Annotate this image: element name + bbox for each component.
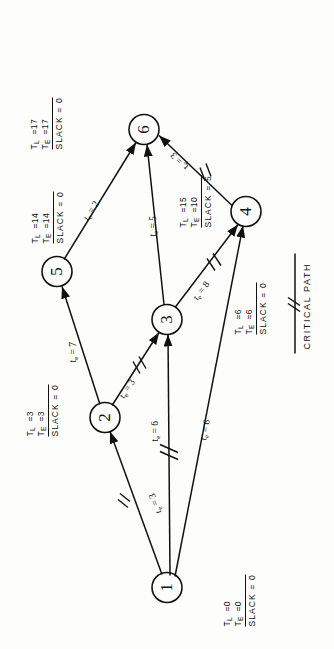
node-label-2[interactable]: 2: [92, 404, 118, 430]
node-label-3[interactable]: 3: [154, 306, 180, 332]
slack-row-4: SLACK = 0: [53, 191, 65, 243]
network-canvas: 1 2 3 4 5 6 TL=0 TE=0 SLACK = 0 TL=3 TE=…: [0, 0, 334, 649]
te-row-5: TE=10: [189, 175, 200, 227]
critical-tick-1-2: [118, 493, 130, 507]
edge-label-2-5: te = 7: [68, 341, 80, 362]
edge-1-4: [175, 225, 243, 576]
node-label-1[interactable]: 1: [154, 574, 180, 600]
stats-box-node-2: TL=3 TE=3 SLACK = 0: [25, 384, 60, 436]
te-row-2: TE=3: [36, 384, 47, 436]
stats-box-node-1: TL=0 TE=0 SLACK = 0: [222, 574, 257, 626]
tl-value-4: 14: [30, 201, 40, 223]
legend-sample: [288, 253, 300, 353]
tl-row-2: TL=3: [25, 384, 36, 436]
slack-row-5: SLACK = 5: [201, 175, 213, 227]
te-value-2: 3: [36, 394, 46, 416]
te-value-3: 6: [244, 292, 254, 314]
slack-value-1: 0: [247, 574, 257, 580]
stats-box-node-5: TL=15 TE=10 SLACK = 5: [178, 175, 213, 227]
stats-box-node-3: TL=6 TE=6 SLACK = 0: [233, 282, 268, 334]
slack-value-2: 0: [50, 384, 60, 390]
te-row-3: TE=6: [244, 282, 255, 334]
tl-row-3: TL=6: [233, 282, 244, 334]
tl-row-1: TL=0: [222, 574, 233, 626]
slack-row-2: SLACK = 0: [48, 384, 60, 436]
stats-box-node-6: TL=17 TE=17 SLACK = 0: [29, 97, 64, 149]
tl-value-6: 17: [29, 107, 39, 129]
te-value-4: 14: [41, 201, 51, 223]
legend-label: CRITICAL PATH: [302, 262, 312, 349]
node-label-6[interactable]: 6: [131, 116, 157, 142]
slack-value-5: 5: [203, 175, 213, 181]
stats-box-node-4: TL=14 TE=14 SLACK = 0: [30, 191, 65, 243]
slack-value-3: 0: [258, 282, 268, 288]
edge-5-6: [64, 142, 136, 259]
figure-root: 1 2 3 4 5 6 TL=0 TE=0 SLACK = 0 TL=3 TE=…: [0, 0, 334, 649]
node-label-4[interactable]: 4: [233, 198, 259, 224]
te-row-6: TE=17: [40, 97, 51, 149]
tl-row-4: TL=14: [30, 191, 41, 243]
tl-value-5: 15: [178, 185, 188, 207]
te-value-5: 10: [189, 185, 199, 207]
tl-row-5: TL=15: [178, 175, 189, 227]
edge-label-3-6: te = 5: [148, 215, 160, 236]
slack-row-3: SLACK = 0: [256, 282, 268, 334]
edge-label-1-3: te = 6: [150, 420, 162, 441]
slack-row-1: SLACK = 0: [245, 574, 257, 626]
tl-row-6: TL=17: [29, 97, 40, 149]
te-row-4: TE=14: [41, 191, 52, 243]
slack-value-6: 0: [54, 97, 64, 103]
te-value-6: 17: [40, 107, 50, 129]
node-label-5[interactable]: 5: [44, 258, 70, 284]
critical-tick-3-4: [207, 253, 221, 270]
tl-value-1: 0: [222, 584, 232, 606]
slack-value-4: 0: [55, 191, 65, 197]
te-value-1: 0: [233, 584, 243, 606]
slack-row-6: SLACK = 0: [52, 97, 64, 149]
tl-value-2: 3: [25, 394, 35, 416]
tl-value-3: 6: [233, 292, 243, 314]
te-row-1: TE=0: [233, 574, 244, 626]
